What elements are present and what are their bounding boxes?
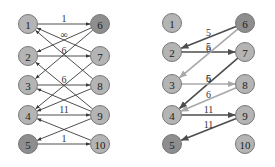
node-2: 2 xyxy=(163,43,182,62)
node-10: 10 xyxy=(236,135,255,154)
node-label: 8 xyxy=(242,79,248,91)
node-label: 6 xyxy=(242,18,248,30)
edge-labels: 1∞66111 xyxy=(59,13,69,144)
node-9: 9 xyxy=(236,106,255,125)
node-label: 5 xyxy=(25,139,31,151)
node-2: 2 xyxy=(19,47,38,66)
node-4: 4 xyxy=(163,106,182,125)
node-7: 7 xyxy=(236,43,255,62)
node-9: 9 xyxy=(91,106,110,125)
original-network-graph: 1∞6611112345678910 xyxy=(19,13,110,154)
edge-label-4-9: 11 xyxy=(59,104,69,115)
node-6: 6 xyxy=(236,14,255,33)
node-label: 9 xyxy=(97,110,103,122)
edge-label-9-5: 11 xyxy=(204,119,214,130)
node-1: 1 xyxy=(19,15,38,34)
node-label: 7 xyxy=(242,47,248,59)
edge-label-6-3: 6 xyxy=(206,43,211,54)
node-3: 3 xyxy=(19,76,38,95)
node-1: 1 xyxy=(163,14,182,33)
network-flow-diagram: 1∞6611112345678910 556566111112345678910 xyxy=(0,0,275,167)
edge-labels: 5565661111 xyxy=(204,27,214,130)
node-10: 10 xyxy=(91,135,110,154)
node-label: 1 xyxy=(169,18,175,30)
node-3: 3 xyxy=(163,75,182,94)
node-label: 4 xyxy=(169,110,175,122)
node-label: 2 xyxy=(169,47,175,59)
node-label: 6 xyxy=(97,19,103,31)
edge-label-8-4: 6 xyxy=(206,89,211,100)
edge-label-2-7: 6 xyxy=(62,45,67,56)
node-label: 9 xyxy=(242,110,248,122)
edge-label-3-8: 6 xyxy=(206,73,211,84)
node-8: 8 xyxy=(91,76,110,95)
node-label: 8 xyxy=(97,80,103,92)
node-label: 2 xyxy=(25,51,31,63)
node-8: 8 xyxy=(236,75,255,94)
node-4: 4 xyxy=(19,106,38,125)
node-5: 5 xyxy=(19,135,38,154)
node-label: 10 xyxy=(95,139,107,151)
edge-label-4-9: 11 xyxy=(204,104,214,115)
node-label: 7 xyxy=(97,51,103,63)
node-label: 3 xyxy=(169,79,175,91)
node-6: 6 xyxy=(91,15,110,34)
node-label: 1 xyxy=(25,19,31,31)
node-label: 10 xyxy=(240,139,252,151)
edge-label-6-2: 5 xyxy=(206,27,211,38)
edge-label-6-2: ∞ xyxy=(60,29,67,40)
edge-label-1-6: 1 xyxy=(62,13,67,24)
node-5: 5 xyxy=(163,135,182,154)
flow-solution-graph: 556566111112345678910 xyxy=(163,14,255,154)
node-label: 5 xyxy=(169,139,175,151)
node-7: 7 xyxy=(91,47,110,66)
edge-label-3-8: 6 xyxy=(62,74,67,85)
edge-label-5-10: 1 xyxy=(62,133,67,144)
node-label: 4 xyxy=(25,110,31,122)
node-label: 3 xyxy=(25,80,31,92)
